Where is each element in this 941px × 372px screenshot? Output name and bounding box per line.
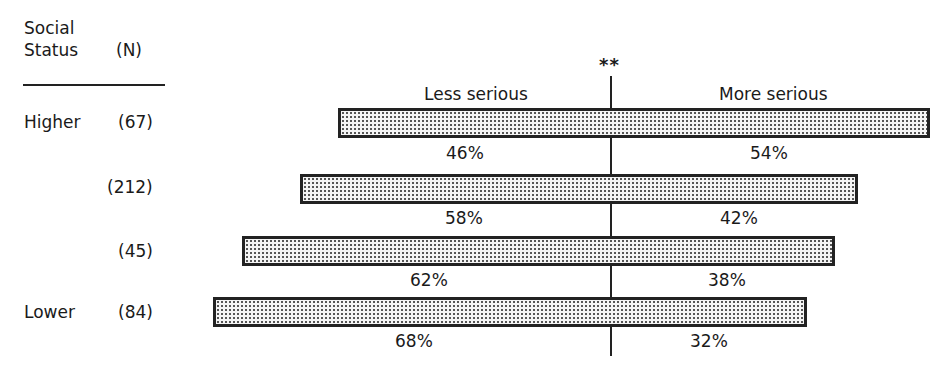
header-status: Status: [24, 40, 78, 61]
header-social: Social: [24, 18, 74, 39]
bar-lower: [213, 297, 807, 327]
header-rule: [23, 84, 165, 86]
pct-less-row2: 58%: [445, 208, 483, 228]
pct-more-row1: 54%: [750, 143, 788, 163]
row-n-212: (212): [107, 177, 153, 197]
row-n-67: (67): [118, 112, 153, 132]
pct-less-row3: 62%: [410, 270, 448, 290]
pct-more-row3: 38%: [708, 270, 746, 290]
significance-marker: **: [599, 54, 620, 75]
header-n: (N): [116, 40, 142, 61]
more-serious-label: More serious: [719, 84, 828, 104]
pct-less-row4: 68%: [395, 331, 433, 351]
pct-more-row4: 32%: [690, 331, 728, 351]
row-status-lower: Lower: [24, 302, 75, 322]
pct-less-row1: 46%: [446, 143, 484, 163]
row-n-45: (45): [118, 241, 153, 261]
bar-higher: [338, 108, 930, 138]
pct-more-row2: 42%: [720, 208, 758, 228]
row-n-84: (84): [118, 302, 153, 322]
less-serious-label: Less serious: [424, 84, 528, 104]
row-status-higher: Higher: [24, 112, 81, 132]
bar-45: [242, 236, 835, 266]
bar-212: [300, 174, 858, 204]
